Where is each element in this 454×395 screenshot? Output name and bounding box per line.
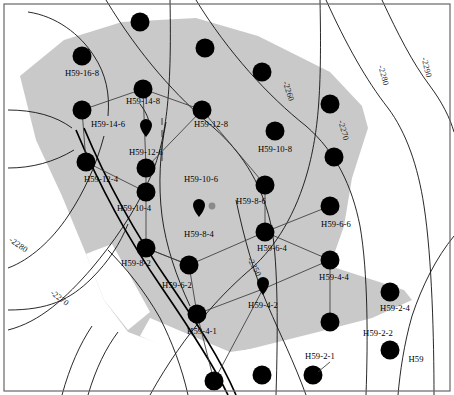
well-label-h59-12-8: H59-12-8 <box>194 119 228 129</box>
well-marker[interactable] <box>253 366 272 385</box>
well-label-h59-14-8: H59-14-8 <box>126 96 160 106</box>
well-label-h59-16-8: H59-16-8 <box>65 68 99 78</box>
well-marker[interactable] <box>321 197 340 216</box>
well-label-h59-8-4: H59-8-4 <box>184 229 214 239</box>
well-marker[interactable] <box>321 95 340 114</box>
well-label-h59-2-1: H59-2-1 <box>305 351 335 361</box>
well-marker[interactable] <box>321 313 340 332</box>
well-label-h59-2-2: H59-2-2 <box>363 328 393 338</box>
well-marker[interactable] <box>381 283 400 302</box>
well-marker[interactable] <box>325 148 344 167</box>
well-label-h59-10-6: H59-10-6 <box>184 174 219 184</box>
map-canvas: H59-16-8 H59-14-8 H59-14-6 H59-12-8 H59-… <box>0 0 454 395</box>
well-label-h59-12-6: H59-12-6 <box>129 147 164 157</box>
well-label-h59-12-4: H59-12-4 <box>84 174 119 184</box>
auxiliary-marker-dot[interactable] <box>209 203 216 210</box>
well-marker[interactable] <box>256 223 275 242</box>
well-marker[interactable] <box>193 101 212 120</box>
well-label-h59-6-6: H59-6-6 <box>321 219 351 229</box>
well-marker[interactable] <box>77 153 96 172</box>
well-marker[interactable] <box>188 305 207 324</box>
well-marker[interactable] <box>137 183 156 202</box>
well-marker[interactable] <box>180 256 199 275</box>
well-marker[interactable] <box>256 176 275 195</box>
well-label-h59-6-4: H59-6-4 <box>257 243 287 253</box>
well-marker[interactable] <box>137 159 156 178</box>
well-label-h59-partial: H59 <box>408 354 423 364</box>
well-label-h59-10-4: H59-10-4 <box>117 203 152 213</box>
well-marker[interactable] <box>304 366 323 385</box>
well-label-h59-8-2: H59-8-2 <box>121 258 151 268</box>
well-label-h59-2-4: H59-2-4 <box>380 303 410 313</box>
well-label-h59-4-4: H59-4-4 <box>319 272 349 282</box>
well-marker[interactable] <box>73 101 92 120</box>
well-marker[interactable] <box>205 372 224 391</box>
well-label-h59-4-2: H59-4-2 <box>248 300 278 310</box>
well-marker[interactable] <box>196 39 215 58</box>
well-marker[interactable] <box>73 47 92 66</box>
structural-contour-map: H59-16-8 H59-14-8 H59-14-6 H59-12-8 H59-… <box>0 0 454 395</box>
well-label-h59-4-1: H59-4-1 <box>187 326 217 336</box>
well-label-h59-6-2: H59-6-2 <box>162 280 192 290</box>
well-label-h59-8-6: H59-8-6 <box>236 196 266 206</box>
well-marker[interactable] <box>131 13 150 32</box>
well-marker[interactable] <box>321 251 340 270</box>
well-marker[interactable] <box>381 341 400 360</box>
well-marker[interactable] <box>253 63 272 82</box>
well-marker[interactable] <box>137 239 156 258</box>
well-label-h59-10-8: H59-10-8 <box>258 144 292 154</box>
well-label-h59-14-6: H59-14-6 <box>91 119 126 129</box>
well-marker[interactable] <box>266 122 285 141</box>
